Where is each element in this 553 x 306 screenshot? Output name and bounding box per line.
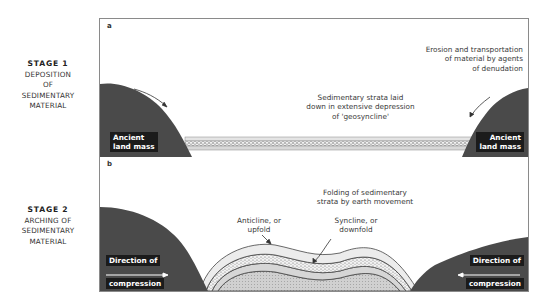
strata-caption-line: Sedimentary strata laid xyxy=(278,93,443,102)
sedimentary-strata xyxy=(185,137,485,150)
left-compression-label-top: Direction of xyxy=(106,255,160,266)
erosion-caption: Erosion and transportation of material b… xyxy=(398,45,523,73)
folding-caption-line: strata by earth movement xyxy=(295,197,435,206)
label-line: Ancient xyxy=(479,133,521,142)
left-compression-label-bottom: compression xyxy=(106,278,164,289)
stage-2-line: MATERIAL xyxy=(0,237,96,248)
stage-1-line: SEDIMENTARY xyxy=(0,91,96,102)
erosion-caption-line: Erosion and transportation xyxy=(398,45,523,54)
anticline-caption: Anticline, or upfold xyxy=(224,216,294,235)
anticline-pointer xyxy=(262,235,271,244)
strata-caption: Sedimentary strata laid down in extensiv… xyxy=(278,93,443,121)
stage-1-label: STAGE 1 DEPOSITION OF SEDIMENTARY MATERI… xyxy=(0,59,96,112)
folding-caption-line: Folding of sedimentary xyxy=(295,188,435,197)
syncline-caption: Syncline, or downfold xyxy=(321,216,391,235)
left-landmass-label: Ancient land mass xyxy=(110,132,158,152)
stage-1-title: STAGE 1 xyxy=(0,59,96,70)
erosion-caption-line: of denudation xyxy=(398,64,523,73)
right-landmass-label: Ancient land mass xyxy=(476,132,524,152)
stage-2-line: ARCHING OF xyxy=(0,216,96,227)
anticline-caption-line: Anticline, or xyxy=(224,216,294,225)
stage-1-line: MATERIAL xyxy=(0,101,96,112)
folding-illustration xyxy=(100,157,528,291)
stage-2-label: STAGE 2 ARCHING OF SEDIMENTARY MATERIAL xyxy=(0,205,96,247)
panel-a-deposition: a Sedimentary strata laid down in extens… xyxy=(99,18,529,158)
stage-2-title: STAGE 2 xyxy=(0,205,96,216)
right-compression-label-top: Direction of xyxy=(470,255,524,266)
stage-2-line: SEDIMENTARY xyxy=(0,226,96,237)
strata-caption-line: down in extensive depression xyxy=(278,102,443,111)
strata-caption-line: of 'geosyncline' xyxy=(278,112,443,121)
panel-a-letter: a xyxy=(107,22,112,30)
folded-strata xyxy=(200,244,418,291)
label-line: land mass xyxy=(479,142,521,151)
folding-caption: Folding of sedimentary strata by earth m… xyxy=(295,188,435,207)
label-line: Ancient xyxy=(113,133,155,142)
right-compression-label-bottom: compression xyxy=(466,278,524,289)
erosion-caption-line: of material by agents xyxy=(398,54,523,63)
stage-1-line: OF xyxy=(0,80,96,91)
panel-b-arching: b Folding of sedimentary strata by earth… xyxy=(99,157,529,292)
anticline-caption-line: upfold xyxy=(224,225,294,234)
deposition-illustration xyxy=(100,19,528,157)
panel-b-letter: b xyxy=(107,160,112,168)
stage-1-line: DEPOSITION xyxy=(0,70,96,81)
label-line: land mass xyxy=(113,142,155,151)
syncline-caption-line: Syncline, or xyxy=(321,216,391,225)
syncline-caption-line: downfold xyxy=(321,225,391,234)
